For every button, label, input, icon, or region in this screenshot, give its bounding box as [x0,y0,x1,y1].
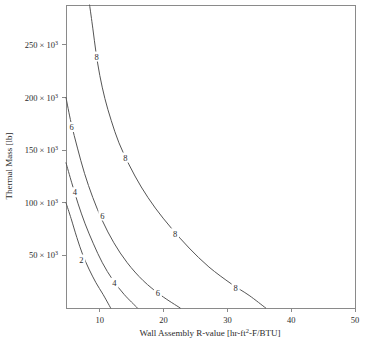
contour-label-8: 8 [94,52,98,62]
y-axis-tick-labels: 50 × 103100 × 103150 × 103200 × 103250 ×… [25,40,58,260]
y-tick-label: 250 × 103 [25,40,58,50]
y-tick-label: 200 × 103 [25,93,58,103]
y-tick-label: 150 × 103 [25,145,58,155]
x-tick-label: 10 [96,315,105,325]
x-axis-ticks [100,308,355,312]
x-axis-tick-labels: 1020304050 [96,315,360,325]
contour-label-8: 8 [234,283,238,293]
y-tick-label: 100 × 103 [25,198,58,208]
contour-label-8: 8 [173,229,177,239]
x-tick-label: 40 [287,315,296,325]
plot-background [66,5,355,308]
y-axis-ticks [62,45,66,255]
y-axis-title: Thermal Mass [lb] [4,133,14,200]
contour-label-2: 2 [79,255,83,265]
contour-plot-figure: 2446668888 1020304050 50 × 103100 × 1031… [0,0,370,342]
contour-label-4: 4 [112,278,117,288]
y-tick-label: 50 × 103 [29,250,58,260]
contour-label-8: 8 [123,153,127,163]
contour-label-4: 4 [73,187,78,197]
contour-label-6: 6 [70,122,74,132]
x-axis-title: Wall Assembly R-value [hr-ft2-F/BTU] [139,327,280,338]
x-tick-label: 20 [159,315,168,325]
plot-canvas: 2446668888 1020304050 50 × 103100 × 1031… [0,0,370,342]
contour-label-6: 6 [100,211,104,221]
x-tick-label: 50 [351,315,360,325]
plot-frame [66,5,355,308]
contour-label-6: 6 [156,288,160,298]
x-tick-label: 30 [223,315,232,325]
